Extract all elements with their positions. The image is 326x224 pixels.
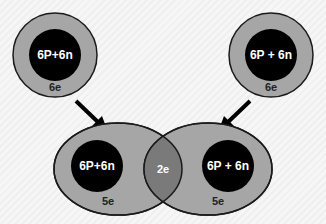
right-nucleus-label: 6P + 6n [207,159,249,173]
atom-right: 6P + 6n 6e [229,13,313,97]
diagram-canvas: 6P+6n 6e 6P + 6n 6e 6P+6n 5e 6P + 6n 5e … [0,0,326,224]
molecule: 6P+6n 5e 6P + 6n 5e 2e [54,123,272,215]
electron-label: 6e [49,81,61,93]
right-electron-label: 5e [212,195,224,207]
covalent-bond-diagram: 6P+6n 6e 6P + 6n 6e 6P+6n 5e 6P + 6n 5e … [0,0,326,224]
left-electron-label: 5e [102,195,114,207]
nucleus-label: 6P+6n [37,48,73,62]
atom-left: 6P+6n 6e [13,13,97,97]
electron-label: 6e [265,81,277,93]
nucleus-label: 6P + 6n [250,48,292,62]
shared-electrons-label: 2e [157,163,169,175]
left-nucleus-label: 6P+6n [79,159,115,173]
